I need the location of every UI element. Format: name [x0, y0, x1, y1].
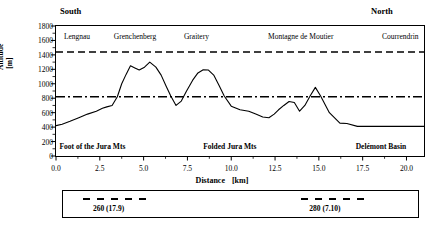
plot-area: LengnauGrenchenbergGraiteryMontagne de M… [55, 25, 425, 157]
x-tick-label: 12.5 [260, 164, 290, 173]
peak-label: Grenchenberg [114, 32, 156, 41]
orientation-label-north: North [371, 7, 393, 16]
topographic-profile-chart [56, 26, 424, 156]
x-axis-unit: [km] [232, 176, 248, 185]
x-tick-label: 0.0 [41, 164, 71, 173]
x-tick-label: 20.0 [391, 164, 421, 173]
x-axis-title: Distance[km] [0, 176, 444, 185]
x-tick-label: 2.5 [85, 164, 115, 173]
x-tick-label: 5.0 [129, 164, 159, 173]
legend-box: 260 (17.9)280 (7.10) [62, 190, 419, 218]
legend-dash-segment [83, 198, 153, 200]
x-tick-label: 17.5 [348, 164, 378, 173]
x-axis-title-text: Distance [196, 176, 225, 185]
plot-inner: LengnauGrenchenbergGraiteryMontagne de M… [56, 26, 424, 156]
figure-root: South North Altitude [m] 020040060080010… [0, 0, 444, 225]
x-tick-label: 15.0 [304, 164, 334, 173]
legend-dash-segment [301, 198, 371, 200]
legend-caption: 260 (17.9) [93, 204, 124, 213]
orientation-label-south: South [60, 7, 81, 16]
peak-label: Courrendrin [382, 32, 419, 41]
x-tick-label: 7.5 [172, 164, 202, 173]
y-axis-tickmarks [0, 0, 55, 225]
peak-label: Montagne de Moutier [268, 32, 333, 41]
peak-label: Graitery [184, 32, 209, 41]
x-tick-label: 10.0 [216, 164, 246, 173]
legend-caption: 280 (7.10) [309, 204, 340, 213]
peak-label: Lengnau [64, 32, 90, 41]
